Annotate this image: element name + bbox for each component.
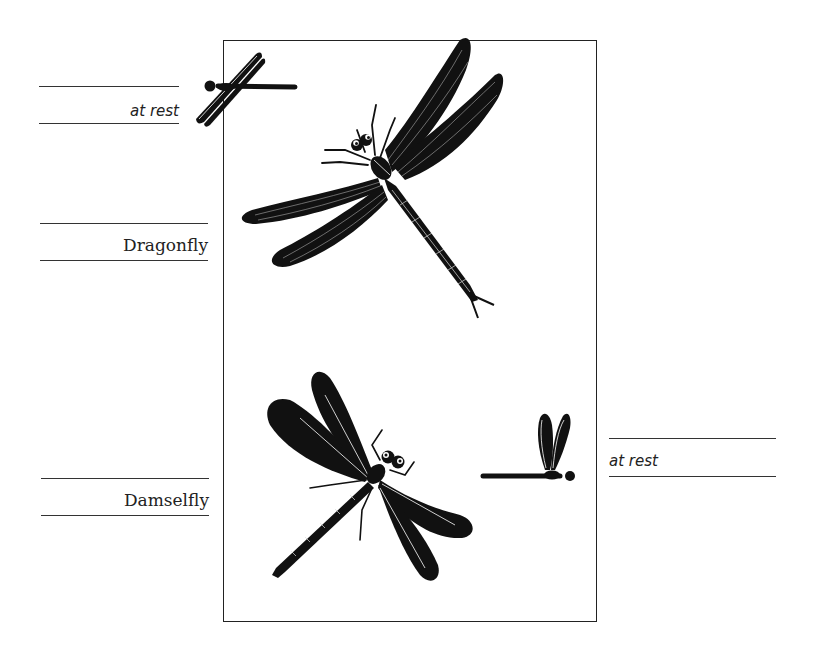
dragonfly-at-rest-icon [196, 53, 295, 127]
damselfly-illustration [267, 372, 472, 581]
damselfly-at-rest-icon [483, 414, 575, 481]
dragonfly-illustration [242, 38, 503, 318]
